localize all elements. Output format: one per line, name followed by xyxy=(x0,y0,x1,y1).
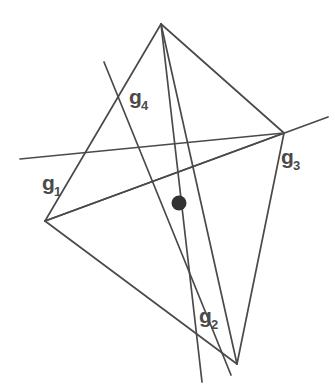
intersection-point-dot xyxy=(172,196,187,211)
label-g4-subscript: 4 xyxy=(141,98,149,113)
label-g2-subscript: 2 xyxy=(211,317,218,332)
label-g2-base: g xyxy=(199,304,212,327)
label-g1-subscript: 1 xyxy=(54,184,61,199)
diagram-background xyxy=(0,0,335,389)
figure-canvas: g 1 g 2 g 3 g 4 xyxy=(0,0,335,389)
label-g3-base: g xyxy=(281,145,294,168)
label-g4-base: g xyxy=(129,85,142,108)
label-g1-base: g xyxy=(42,171,55,194)
label-g3-subscript: 3 xyxy=(293,158,300,173)
tetrahedron-diagram: g 1 g 2 g 3 g 4 xyxy=(0,0,335,389)
